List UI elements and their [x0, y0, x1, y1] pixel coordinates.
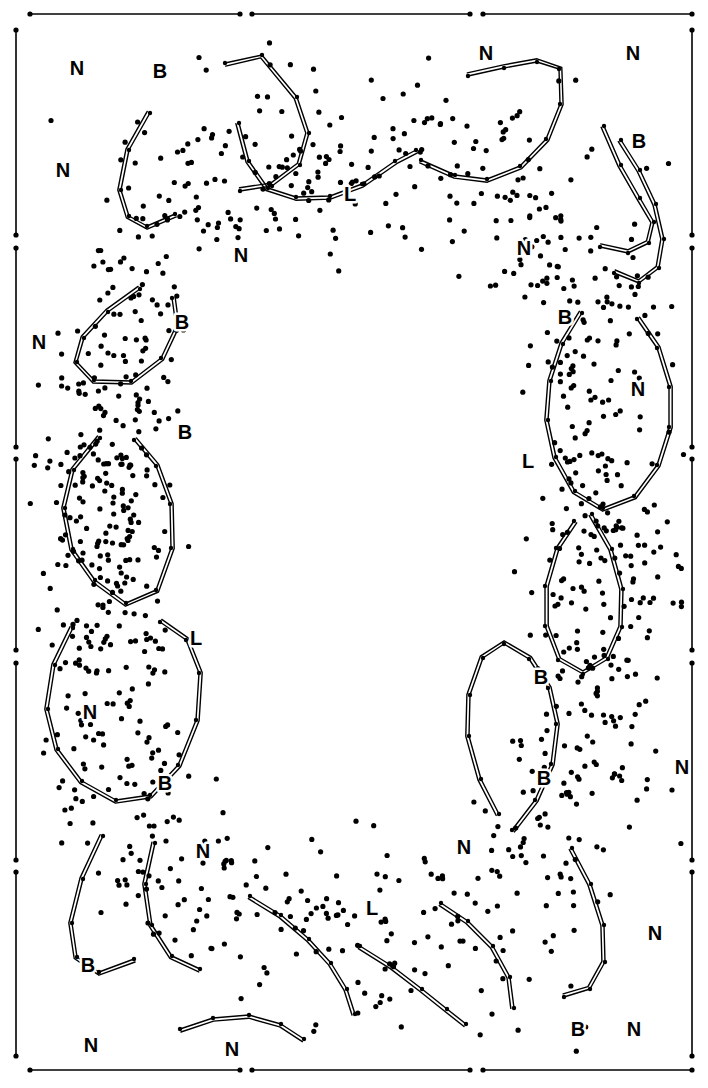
density-point: [475, 876, 480, 881]
density-point: [549, 191, 554, 196]
density-point: [527, 138, 532, 143]
density-point: [669, 304, 674, 309]
density-point: [127, 534, 132, 539]
density-point: [671, 601, 676, 606]
frame-tick-segment-right-2: [689, 456, 694, 652]
density-point: [601, 602, 606, 607]
density-point: [625, 674, 630, 679]
density-point: [559, 487, 564, 492]
density-point: [550, 527, 555, 532]
density-point: [345, 922, 350, 927]
density-point: [554, 339, 559, 344]
density-point: [97, 428, 102, 433]
density-point: [369, 149, 374, 154]
density-point: [144, 584, 149, 589]
density-point: [457, 939, 462, 944]
density-point: [86, 351, 91, 356]
density-point: [134, 392, 139, 397]
density-point: [645, 777, 650, 782]
density-point: [627, 825, 632, 830]
density-point: [489, 868, 494, 873]
density-point: [117, 623, 122, 628]
density-point: [44, 737, 49, 742]
density-point: [538, 253, 543, 258]
density-point: [277, 164, 282, 169]
density-point: [157, 418, 162, 423]
density-point: [90, 820, 95, 825]
density-point: [601, 647, 606, 652]
density-point: [135, 407, 140, 412]
density-point: [340, 948, 345, 953]
density-point: [547, 262, 552, 267]
density-point: [465, 892, 470, 897]
chain-vertex: [638, 168, 642, 172]
density-point: [81, 761, 86, 766]
density-point: [106, 267, 111, 272]
density-point: [294, 951, 299, 956]
density-point: [590, 791, 595, 796]
density-point: [186, 544, 191, 549]
density-point: [239, 996, 244, 1001]
density-point: [626, 658, 631, 663]
density-point: [196, 205, 201, 210]
density-point: [273, 216, 278, 221]
density-point: [546, 240, 551, 245]
density-point: [629, 597, 634, 602]
density-point: [156, 748, 161, 753]
density-point: [137, 858, 142, 863]
density-point: [397, 147, 402, 152]
chain-vertex: [527, 657, 531, 661]
density-point: [605, 478, 610, 483]
density-point: [58, 483, 63, 488]
density-point: [162, 761, 167, 766]
density-point: [336, 900, 341, 905]
density-point: [324, 896, 329, 901]
density-point: [152, 482, 157, 487]
density-point: [642, 560, 647, 565]
density-point: [533, 195, 538, 200]
chain-vertex: [98, 436, 102, 440]
chain-vertex: [295, 95, 299, 99]
density-point: [72, 787, 77, 792]
chain-vertex: [114, 798, 118, 802]
density-point: [439, 944, 444, 949]
density-point: [220, 810, 225, 815]
density-point: [296, 233, 301, 238]
density-point: [366, 165, 371, 170]
chain-vertex: [178, 1027, 182, 1031]
density-point: [471, 201, 476, 206]
molecular-chain: [248, 894, 357, 1016]
density-point: [317, 208, 322, 213]
density-point: [601, 305, 606, 310]
density-point: [97, 506, 102, 511]
density-point: [135, 557, 140, 562]
density-point: [561, 781, 566, 786]
region-label-l-14: L: [522, 450, 534, 472]
density-point: [144, 386, 149, 391]
chain-vertex: [92, 378, 96, 382]
density-point: [309, 189, 314, 194]
density-point: [227, 894, 232, 899]
density-point: [418, 150, 423, 155]
density-point: [309, 911, 314, 916]
density-point: [629, 284, 634, 289]
density-point: [80, 799, 85, 804]
chain-vertex: [46, 707, 50, 711]
density-point: [137, 719, 142, 724]
density-point: [594, 225, 599, 230]
density-point: [316, 110, 321, 115]
density-point: [644, 166, 649, 171]
density-point: [96, 457, 101, 462]
density-point: [305, 898, 310, 903]
density-point: [124, 374, 129, 379]
density-point: [419, 247, 424, 252]
chain-vertex: [248, 894, 252, 898]
density-point: [449, 922, 454, 927]
density-point: [65, 450, 70, 455]
density-point: [111, 353, 116, 358]
density-point: [89, 562, 94, 567]
density-point: [320, 904, 325, 909]
density-point: [244, 882, 249, 887]
density-point: [678, 841, 683, 846]
density-point: [515, 891, 520, 896]
